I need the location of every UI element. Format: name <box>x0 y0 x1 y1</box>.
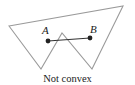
point-b <box>88 36 93 41</box>
non-convex-polygon <box>9 6 123 69</box>
label-b: B <box>90 23 97 35</box>
convexity-diagram: A B Not convex <box>0 0 135 85</box>
point-a <box>46 39 51 44</box>
label-a: A <box>41 24 49 36</box>
caption: Not convex <box>43 73 92 84</box>
